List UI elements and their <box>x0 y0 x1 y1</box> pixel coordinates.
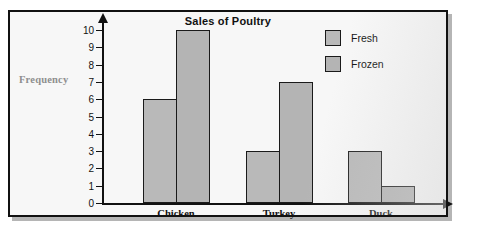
legend-label-fresh: Fresh <box>351 32 378 44</box>
y-tick-label-8: 8 <box>72 59 94 70</box>
bar-duck-frozen <box>381 186 415 203</box>
y-tick-label-1: 1 <box>72 180 94 191</box>
chart-legend: Fresh Frozen <box>325 30 384 82</box>
y-tick-label-3: 3 <box>72 146 94 157</box>
x-label-turkey: Turkey <box>263 208 295 219</box>
legend-item-fresh[interactable]: Fresh <box>325 30 384 46</box>
y-tick-label-2: 2 <box>72 163 94 174</box>
y-tick-5 <box>96 117 102 118</box>
y-tick-label-7: 7 <box>72 76 94 87</box>
y-axis-title: Frequency <box>19 74 68 85</box>
bar-turkey-fresh <box>246 151 280 203</box>
legend-item-frozen[interactable]: Frozen <box>325 56 384 72</box>
x-label-duck: Duck <box>369 208 393 219</box>
y-tick-8 <box>96 65 102 66</box>
y-axis-line <box>102 22 104 205</box>
legend-label-frozen: Frozen <box>351 58 384 70</box>
x-axis-line <box>102 203 444 205</box>
bar-duck-fresh <box>348 151 382 203</box>
y-axis-arrow-icon <box>98 13 108 23</box>
y-tick-4 <box>96 134 102 135</box>
x-axis-arrow-icon <box>443 199 453 209</box>
y-tick-label-10: 10 <box>72 25 94 36</box>
y-tick-label-0: 0 <box>72 198 94 209</box>
legend-swatch-fresh-icon <box>325 30 341 46</box>
y-tick-label-6: 6 <box>72 94 94 105</box>
chart-frame: Sales of Poultry Frequency 012345678910 … <box>8 10 448 217</box>
legend-swatch-frozen-icon <box>325 56 341 72</box>
bar-turkey-frozen <box>279 82 313 203</box>
chart-plot-area: Sales of Poultry Frequency 012345678910 … <box>10 12 446 215</box>
y-tick-label-4: 4 <box>72 128 94 139</box>
bar-chicken-fresh <box>143 99 177 203</box>
y-tick-10 <box>96 30 102 31</box>
y-tick-7 <box>96 82 102 83</box>
y-tick-1 <box>96 186 102 187</box>
y-tick-0 <box>96 203 102 204</box>
y-tick-label-9: 9 <box>72 42 94 53</box>
y-tick-9 <box>96 47 102 48</box>
y-tick-2 <box>96 168 102 169</box>
y-tick-label-5: 5 <box>72 111 94 122</box>
y-tick-6 <box>96 99 102 100</box>
bar-chicken-frozen <box>176 30 210 203</box>
y-tick-3 <box>96 151 102 152</box>
x-label-chicken: Chicken <box>157 208 194 219</box>
